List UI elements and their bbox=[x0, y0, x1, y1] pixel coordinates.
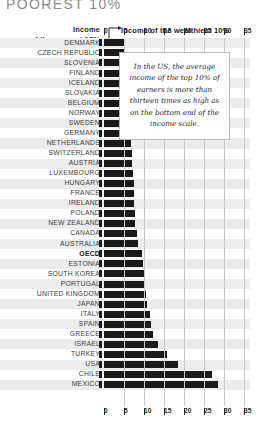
x-tick-top-20: 20 bbox=[184, 27, 191, 34]
country-label: MEXICO bbox=[0, 380, 100, 387]
country-label: ISRAEL bbox=[0, 340, 100, 347]
value-bar bbox=[104, 291, 146, 298]
country-label: HUNGARY bbox=[0, 179, 100, 186]
table-row: UNITED KINGDOM bbox=[104, 289, 250, 299]
table-row: AUSTRIA bbox=[104, 159, 250, 169]
country-label: ICELAND bbox=[0, 79, 100, 86]
value-bar bbox=[104, 301, 147, 308]
x-tick-top-10: 10 bbox=[144, 27, 151, 34]
poorest-decile-marker bbox=[99, 371, 102, 378]
value-bar bbox=[104, 371, 212, 378]
value-bar bbox=[104, 341, 158, 348]
x-tick-top-30: 30 bbox=[224, 27, 231, 34]
table-row: SPAIN bbox=[104, 319, 250, 329]
country-label: SWEDEN bbox=[0, 119, 100, 126]
poorest-decile-marker bbox=[99, 260, 102, 267]
table-row: AUSTRALIA bbox=[104, 239, 250, 249]
chart-page: POOREST 10% Income of the poorest 10% In… bbox=[0, 0, 260, 433]
table-row: SOUTH KOREA bbox=[104, 269, 250, 279]
value-bar bbox=[104, 351, 167, 358]
country-label: CANADA bbox=[0, 229, 100, 236]
poorest-decile-marker bbox=[99, 270, 102, 277]
country-label: ITALY bbox=[0, 310, 100, 317]
country-label: BELGIUM bbox=[0, 99, 100, 106]
x-tick-bottom-35: 35 bbox=[244, 407, 251, 414]
table-row: ESTONIA bbox=[104, 259, 250, 269]
country-label: SPAIN bbox=[0, 320, 100, 327]
value-bar bbox=[104, 240, 138, 247]
country-label: ESTONIA bbox=[0, 260, 100, 267]
poorest-decile-marker bbox=[99, 240, 102, 247]
country-label: SLOVAKIA bbox=[0, 89, 100, 96]
x-tick-bottom-25: 25 bbox=[204, 407, 211, 414]
poorest-decile-marker bbox=[99, 250, 102, 257]
table-row: HUNGARY bbox=[104, 179, 250, 189]
table-row: NEW ZEALAND bbox=[104, 219, 250, 229]
table-row: JAPAN bbox=[104, 299, 250, 309]
value-bar bbox=[104, 160, 132, 167]
x-tick-top-15: 15 bbox=[164, 27, 171, 34]
country-label: AUSTRIA bbox=[0, 159, 100, 166]
x-axis-top: 05101520253035 bbox=[104, 27, 250, 36]
poorest-decile-marker bbox=[99, 291, 102, 298]
value-bar bbox=[104, 210, 135, 217]
table-row: PORTUGAL bbox=[104, 279, 250, 289]
country-label: POLAND bbox=[0, 209, 100, 216]
table-row: OECD bbox=[104, 249, 250, 259]
poorest-decile-marker bbox=[99, 130, 102, 137]
table-row: DENMARK bbox=[104, 38, 250, 48]
value-bar bbox=[104, 190, 134, 197]
poorest-decile-marker bbox=[99, 210, 102, 217]
country-label: CZECH REPUBLIC bbox=[0, 49, 100, 56]
table-row: SWITZERLAND bbox=[104, 149, 250, 159]
country-label: IRELAND bbox=[0, 199, 100, 206]
poorest-decile-marker bbox=[99, 341, 102, 348]
poorest-decile-marker bbox=[99, 39, 102, 46]
country-label: UNITED KINGDOM bbox=[0, 290, 100, 297]
poorest-decile-marker bbox=[99, 311, 102, 318]
poorest-decile-marker bbox=[99, 100, 102, 107]
table-row: MEXICO bbox=[104, 380, 250, 390]
value-bar bbox=[104, 140, 131, 147]
country-label: JAPAN bbox=[0, 300, 100, 307]
gridline-35 bbox=[244, 38, 245, 406]
poorest-decile-marker bbox=[99, 110, 102, 117]
table-row: TURKEY bbox=[104, 349, 250, 359]
country-label: NETHERLANDS bbox=[0, 139, 100, 146]
poorest-decile-marker bbox=[99, 140, 102, 147]
poorest-decile-marker bbox=[99, 301, 102, 308]
x-tick-bottom-15: 15 bbox=[164, 407, 171, 414]
country-label: OECD bbox=[0, 250, 100, 257]
callout-text: In the US, the average income of the top… bbox=[126, 61, 223, 129]
x-tick-top-25: 25 bbox=[204, 27, 211, 34]
table-row: ISRAEL bbox=[104, 339, 250, 349]
value-bar bbox=[104, 230, 137, 237]
table-row: CANADA bbox=[104, 229, 250, 239]
poorest-decile-marker bbox=[99, 150, 102, 157]
callout-box: In the US, the average income of the top… bbox=[119, 52, 230, 140]
table-row: LUXEMBOURG bbox=[104, 169, 250, 179]
poorest-decile-marker bbox=[99, 90, 102, 97]
value-bar bbox=[104, 200, 134, 207]
table-row: GREECE bbox=[104, 329, 250, 339]
value-bar bbox=[104, 170, 133, 177]
country-label: LUXEMBOURG bbox=[0, 169, 100, 176]
x-tick-bottom-10: 10 bbox=[144, 407, 151, 414]
x-tick-top-35: 35 bbox=[244, 27, 251, 34]
country-label: DENMARK bbox=[0, 39, 100, 46]
country-label: USA bbox=[0, 360, 100, 367]
poorest-decile-marker bbox=[99, 230, 102, 237]
poorest-decile-marker bbox=[99, 120, 102, 127]
poorest-decile-marker bbox=[99, 351, 102, 358]
poorest-decile-marker bbox=[99, 70, 102, 77]
poorest-decile-marker bbox=[99, 361, 102, 368]
country-label: GERMANY bbox=[0, 129, 100, 136]
country-label: SWITZERLAND bbox=[0, 149, 100, 156]
country-label: NORWAY bbox=[0, 109, 100, 116]
table-row: USA bbox=[104, 360, 250, 370]
value-bar bbox=[104, 180, 134, 187]
value-bar bbox=[104, 39, 125, 46]
country-label: PORTUGAL bbox=[0, 280, 100, 287]
value-bar bbox=[104, 331, 153, 338]
value-bar bbox=[104, 311, 150, 318]
